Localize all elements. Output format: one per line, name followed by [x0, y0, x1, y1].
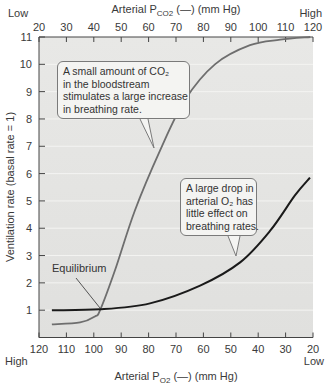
y-tick-label: 8 [26, 113, 32, 125]
bottom-tick-label: 60 [197, 343, 209, 355]
bottom-axis-title: Arterial PO2 (—) (mm Hg) [114, 370, 237, 384]
bottom-tick-label: 80 [142, 343, 154, 355]
top-tick-label: 110 [277, 21, 295, 33]
co2-callout: A small amount of CO₂ in the bloodstream… [57, 61, 190, 119]
top-high-label: High [299, 7, 322, 19]
y-tick-label: 10 [20, 58, 32, 70]
y-tick-label: 4 [26, 222, 32, 234]
top-tick-label: 120 [304, 21, 322, 33]
y-tick-label: 6 [26, 168, 32, 180]
top-tick-label: 30 [60, 21, 72, 33]
top-tick-label: 20 [33, 21, 45, 33]
o2-callout-line-4: breathing rates. [186, 220, 251, 233]
co2-callout-line-4: in breathing rate. [63, 103, 184, 116]
bottom-high-label: High [5, 355, 28, 367]
bottom-tick-label: 30 [279, 343, 291, 355]
top-axis-title: Arterial PCO2 (—) (mm Hg) [112, 3, 241, 18]
y-tick-label: 1 [26, 304, 32, 316]
y-tick-label: 9 [26, 86, 32, 98]
bottom-tick-label: 50 [225, 343, 237, 355]
bottom-tick-label: 100 [85, 343, 103, 355]
top-tick-label: 50 [115, 21, 127, 33]
bottom-tick-label: 40 [252, 343, 264, 355]
y-tick-label: 7 [26, 140, 32, 152]
bottom-low-label: Low [304, 355, 324, 367]
y-tick-label: 3 [26, 250, 32, 262]
y-tick-label: 11 [21, 31, 32, 43]
o2-callout-line-3: little effect on [186, 207, 251, 220]
bottom-tick-label: 110 [58, 343, 76, 355]
y-axis-title: Ventilation rate (basal rate = 1) [4, 112, 16, 262]
o2-callout: A large drop in arterial O₂ has little e… [180, 178, 257, 236]
top-tick-label: 70 [170, 21, 182, 33]
co2-callout-line-2: in the bloodstream [63, 78, 184, 91]
o2-callout-line-1: A large drop in [186, 182, 251, 195]
top-tick-label: 80 [197, 21, 209, 33]
top-tick-label: 100 [249, 21, 267, 33]
bottom-tick-label: 90 [115, 343, 127, 355]
bottom-tick-label: 120 [30, 343, 48, 355]
top-tick-label: 60 [142, 21, 154, 33]
bottom-tick-label: 70 [170, 343, 182, 355]
y-tick-label: 5 [26, 195, 32, 207]
bottom-tick-label: 20 [307, 343, 319, 355]
co2-callout-line-3: stimulates a large increase [63, 90, 184, 103]
equilibrium-label: Equilibrium [52, 262, 106, 274]
o2-callout-line-2: arterial O₂ has [186, 195, 251, 208]
co2-callout-line-1: A small amount of CO₂ [63, 65, 184, 78]
y-tick-label: 2 [26, 277, 32, 289]
ventilation-chart: 1234567891011203040506070809010011012012… [0, 0, 327, 384]
top-tick-label: 90 [225, 21, 237, 33]
top-tick-label: 40 [88, 21, 100, 33]
top-low-label: Low [8, 7, 28, 19]
